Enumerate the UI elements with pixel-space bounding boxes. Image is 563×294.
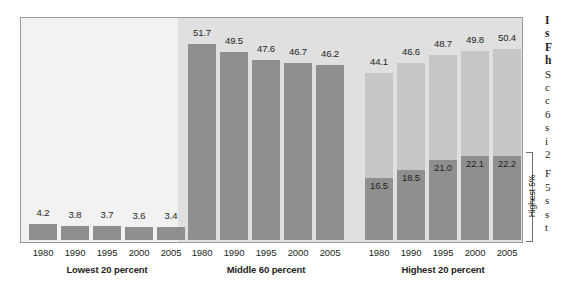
bar-highest20-2005 (493, 49, 521, 240)
side-caption-line-12: F (545, 167, 563, 180)
side-caption-line-3: F (545, 41, 563, 54)
bar-middle60-2005 (316, 65, 344, 240)
year-label-middle60-2000: 2000 (280, 247, 316, 258)
year-label-lowest20-1995: 1995 (89, 247, 125, 258)
bar-value-middle60-1995: 47.6 (248, 43, 284, 54)
bar-middle60-2000 (284, 63, 312, 240)
bar-middle60-1990 (220, 52, 248, 240)
year-label-middle60-2005: 2005 (312, 247, 348, 258)
side-caption-line-2: s (545, 27, 563, 40)
group-caption-middle-60: Middle 60 percent (186, 264, 346, 275)
bar-middle60-1995 (252, 60, 280, 240)
side-caption-line-16: t (545, 221, 563, 234)
side-caption-line-9: s (545, 121, 563, 134)
bar-value-highest20-2005: 50.4 (489, 32, 525, 43)
bar-value-middle60-2000: 46.7 (280, 46, 316, 57)
bar-value-highest5-1995: 21.0 (425, 162, 461, 173)
bar-value-lowest20-2000: 3.6 (121, 210, 157, 221)
bar-highest20-2000 (461, 51, 489, 240)
side-caption-line-4: h (545, 54, 563, 67)
year-label-middle60-1995: 1995 (248, 247, 284, 258)
bar-highest20-1990 (397, 63, 425, 240)
year-label-highest20-1990: 1990 (393, 247, 429, 258)
side-caption-line-1: I (545, 14, 563, 27)
group-caption-highest-20: Highest 20 percent (363, 264, 523, 275)
bar-value-middle60-2005: 46.2 (312, 48, 348, 59)
bar-lowest20-1995 (93, 226, 121, 240)
bar-lowest20-1990 (61, 226, 89, 240)
bar-value-highest5-1990: 18.5 (393, 172, 429, 183)
bar-value-highest5-1980: 16.5 (361, 180, 397, 191)
year-label-highest20-1995: 1995 (425, 247, 461, 258)
bar-lowest20-1980 (29, 224, 57, 240)
side-caption-line-6: c (545, 81, 563, 94)
group-caption-lowest-20: Lowest 20 percent (27, 264, 187, 275)
bar-value-lowest20-1980: 4.2 (25, 207, 61, 218)
bar-lowest20-2000 (125, 227, 153, 240)
bar-value-highest20-1995: 48.7 (425, 38, 461, 49)
bar-highest20-1980 (365, 73, 393, 240)
side-caption-line-15: s (545, 208, 563, 221)
bar-highest20-1995 (429, 55, 457, 240)
bar-value-lowest20-1995: 3.7 (89, 209, 125, 220)
bar-lowest20-2005 (157, 227, 185, 240)
chart-page: 4.2 3.8 3.7 3.6 3.4 51.7 49.5 47.6 46.7 … (0, 0, 563, 294)
year-label-middle60-1990: 1990 (216, 247, 252, 258)
bar-value-middle60-1980: 51.7 (184, 27, 220, 38)
bar-value-highest20-1980: 44.1 (361, 56, 397, 67)
side-caption-line-10: i (545, 135, 563, 148)
bar-value-highest20-1990: 46.6 (393, 46, 429, 57)
side-caption-line-11: 2 (545, 148, 563, 161)
side-caption-line-13: 5 (545, 181, 563, 194)
side-caption-column: I s F h S c c 6 s i 2 F 5 s s t (545, 14, 563, 235)
year-label-highest20-1980: 1980 (361, 247, 397, 258)
side-caption-line-8: 6 (545, 108, 563, 121)
year-label-highest20-2000: 2000 (457, 247, 493, 258)
bar-value-highest5-2005: 22.2 (489, 158, 525, 169)
bar-value-highest5-2000: 22.1 (457, 158, 493, 169)
year-label-lowest20-1990: 1990 (57, 247, 93, 258)
bar-value-middle60-1990: 49.5 (216, 35, 252, 46)
bar-value-lowest20-2005: 3.4 (153, 210, 189, 221)
bar-value-lowest20-1990: 3.8 (57, 209, 93, 220)
bar-value-highest20-2000: 49.8 (457, 34, 493, 45)
side-caption-line-5: S (545, 68, 563, 81)
side-caption-line-7: c (545, 94, 563, 107)
chart-bars-layer: 4.2 3.8 3.7 3.6 3.4 51.7 49.5 47.6 46.7 … (20, 17, 523, 243)
side-caption-line-14: s (545, 194, 563, 207)
highest5-bracket-label: Highest 5% (527, 175, 537, 217)
year-label-middle60-1980: 1980 (184, 247, 220, 258)
bar-middle60-1980 (188, 44, 216, 240)
year-label-highest20-2005: 2005 (489, 247, 525, 258)
year-label-lowest20-2000: 2000 (121, 247, 157, 258)
year-label-lowest20-1980: 1980 (25, 247, 61, 258)
